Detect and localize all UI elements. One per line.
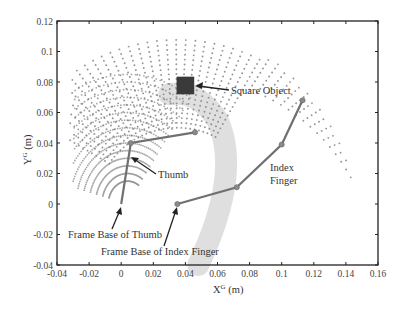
svg-text:0: 0 [48, 200, 53, 210]
svg-text:0.08: 0.08 [36, 78, 53, 88]
svg-text:0.02: 0.02 [145, 269, 162, 279]
label-frame-base-thumb: Frame Base of Thumb [68, 229, 162, 240]
square-object-marker [177, 77, 195, 95]
svg-text:0.06: 0.06 [36, 108, 53, 118]
svg-text:0.1: 0.1 [41, 47, 53, 57]
label-index: Index [270, 162, 295, 173]
svg-text:0.04: 0.04 [36, 139, 53, 149]
label-finger: Finger [270, 175, 298, 186]
svg-text:-0.04: -0.04 [47, 269, 67, 279]
svg-text:0.06: 0.06 [209, 269, 226, 279]
svg-text:-0.02: -0.02 [33, 230, 53, 240]
workspace-plot: -0.04-0.0200.020.040.060.080.10.120.140.… [0, 0, 405, 309]
svg-text:-0.02: -0.02 [79, 269, 99, 279]
label-square-object: Square Object [231, 85, 291, 96]
svg-text:0.04: 0.04 [177, 269, 194, 279]
svg-text:0.16: 0.16 [370, 269, 387, 279]
label-thumb: Thumb [158, 169, 188, 180]
label-frame-base-index: Frame Base of Index Finger [101, 246, 219, 257]
svg-text:-0.04: -0.04 [33, 261, 53, 271]
svg-text:0.12: 0.12 [36, 17, 53, 27]
svg-text:0.1: 0.1 [276, 269, 288, 279]
x-axis-label: XG (m) [213, 283, 244, 296]
svg-text:0.08: 0.08 [241, 269, 258, 279]
svg-text:0.12: 0.12 [305, 269, 322, 279]
y-axis-label: YG (m) [21, 134, 34, 165]
svg-text:0: 0 [119, 269, 124, 279]
svg-text:0.14: 0.14 [338, 269, 355, 279]
svg-text:0.02: 0.02 [36, 169, 53, 179]
